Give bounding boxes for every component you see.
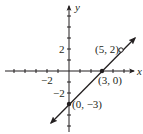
point-0-neg3 [67, 102, 71, 106]
x-axis-label: x [136, 65, 142, 77]
x-tick-label-neg2: −2 [41, 74, 53, 86]
coordinate-plane: y x −2 2 −2 (0, −3) (3, 0) (5, 2) [0, 0, 143, 134]
point-3-0 [100, 69, 104, 73]
y-tick-label-2: 2 [59, 43, 65, 55]
y-tick-label-neg2: −2 [53, 87, 65, 99]
point-label-0-neg3: (0, −3) [72, 98, 102, 111]
y-axis-label: y [74, 1, 80, 13]
y-axis [67, 6, 71, 132]
point-label-5-2: (5, 2) [95, 43, 119, 56]
point-5-2-open [119, 48, 123, 52]
point-label-3-0: (3, 0) [98, 74, 122, 87]
